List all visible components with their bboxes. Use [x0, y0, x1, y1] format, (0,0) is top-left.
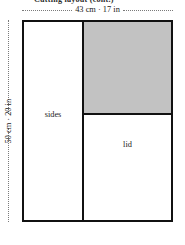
width-dimension-label: 43 cm · 17 in: [75, 6, 120, 14]
region-sides-label: sides: [45, 111, 62, 119]
leader-line-right: [123, 10, 173, 12]
region-sides: sides: [24, 22, 84, 220]
cutting-layout-figure: Cutting layout (cont.) 43 cm · 17 in 50 …: [0, 0, 185, 245]
region-lid-label: lid: [123, 141, 132, 149]
height-dimension: 50 cm · 20 in: [3, 20, 15, 222]
right-column: lid: [84, 22, 171, 220]
layout-rectangle: sides lid: [22, 20, 173, 222]
region-shaded: [84, 22, 171, 115]
cropped-caption-text: Cutting layout (cont.): [34, 0, 114, 4]
width-dimension: 43 cm · 17 in: [22, 5, 173, 16]
height-dimension-label: 50 cm · 20 in: [5, 99, 13, 144]
region-lid: lid: [84, 115, 171, 220]
leader-line-left: [22, 10, 72, 12]
